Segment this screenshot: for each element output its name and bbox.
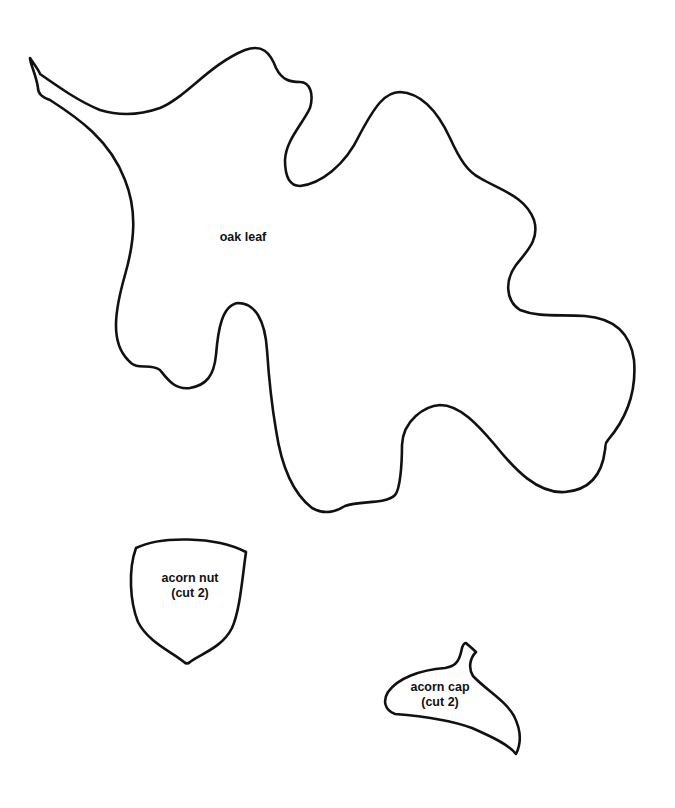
oak-leaf-outline <box>30 48 634 512</box>
oak-leaf-label-line1: oak leaf <box>208 230 278 245</box>
acorn-nut-label-line1: acorn nut <box>150 571 230 586</box>
acorn-nut-label: acorn nut (cut 2) <box>150 571 230 601</box>
acorn-cap-label-line2: (cut 2) <box>400 695 480 710</box>
oak-leaf-label: oak leaf <box>208 230 278 245</box>
acorn-nut-outline <box>131 539 246 663</box>
acorn-cap-label: acorn cap (cut 2) <box>400 680 480 710</box>
pattern-sheet <box>0 0 675 808</box>
acorn-nut-label-line2: (cut 2) <box>150 586 230 601</box>
acorn-cap-label-line1: acorn cap <box>400 680 480 695</box>
